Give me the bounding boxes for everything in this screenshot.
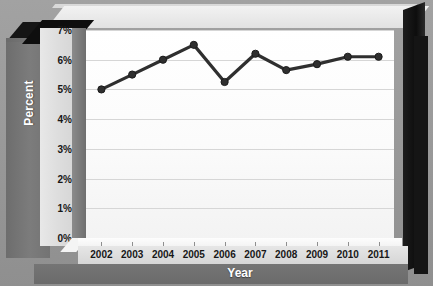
y-axis-tick-label: 1% bbox=[40, 203, 72, 214]
data-point-marker bbox=[221, 78, 228, 85]
x-axis-tick-label: 2008 bbox=[275, 249, 297, 260]
x-axis-tick-label: 2009 bbox=[306, 249, 328, 260]
x-axis-tick-labels: 2002200320042005200620072008200920102011 bbox=[86, 246, 394, 264]
y-axis-tick-label: 6% bbox=[40, 54, 72, 65]
data-point-marker bbox=[129, 71, 136, 78]
data-point-marker bbox=[190, 41, 197, 48]
data-point-marker bbox=[159, 56, 166, 63]
plot-area bbox=[86, 30, 394, 238]
data-point-marker bbox=[252, 50, 259, 57]
x-axis-tick-label: 2003 bbox=[121, 249, 143, 260]
x-axis-tick-label: 2011 bbox=[368, 249, 390, 260]
frame-wall-thickness bbox=[72, 28, 86, 246]
data-point-marker bbox=[313, 61, 320, 68]
x-axis-tick-label: 2002 bbox=[90, 249, 112, 260]
x-axis-tick-label: 2007 bbox=[244, 249, 266, 260]
data-point-marker bbox=[98, 86, 105, 93]
data-point-marker bbox=[344, 53, 351, 60]
x-axis-tick-label: 2010 bbox=[337, 249, 359, 260]
y-axis-tick-label: 2% bbox=[40, 173, 72, 184]
y-axis-tick-label: 7% bbox=[40, 25, 72, 36]
x-axis-tick-mark bbox=[286, 242, 287, 246]
chart-container: Percent 0%1%2%3%4%5%6%7% 200220032004200… bbox=[0, 0, 433, 286]
y-axis-tick-label: 3% bbox=[40, 143, 72, 154]
y-axis-tick-label: 5% bbox=[40, 84, 72, 95]
frame-right-slab-inner bbox=[414, 36, 428, 274]
x-axis-tick-mark bbox=[255, 242, 256, 246]
y-axis-tick-labels: 0%1%2%3%4%5%6%7% bbox=[40, 28, 74, 246]
x-axis-tick-mark bbox=[379, 242, 380, 246]
y-axis-tick-label: 4% bbox=[40, 114, 72, 125]
y-axis-title: Percent bbox=[22, 58, 36, 148]
x-axis-title: Year bbox=[86, 266, 394, 280]
x-axis-tick-mark bbox=[348, 242, 349, 246]
x-axis-tick-mark bbox=[132, 242, 133, 246]
x-axis-tick-mark bbox=[163, 242, 164, 246]
data-point-marker bbox=[375, 53, 382, 60]
data-point-marker bbox=[283, 67, 290, 74]
x-axis-tick-label: 2006 bbox=[213, 249, 235, 260]
x-axis-tick-label: 2004 bbox=[152, 249, 174, 260]
x-axis-tick-mark bbox=[194, 242, 195, 246]
x-axis-tick-mark bbox=[101, 242, 102, 246]
x-axis-tick-mark bbox=[225, 242, 226, 246]
x-axis-tick-label: 2005 bbox=[183, 249, 205, 260]
x-axis-tick-mark bbox=[317, 242, 318, 246]
series-line bbox=[101, 45, 378, 90]
frame-ceiling bbox=[47, 6, 429, 28]
line-series-svg bbox=[86, 30, 394, 238]
